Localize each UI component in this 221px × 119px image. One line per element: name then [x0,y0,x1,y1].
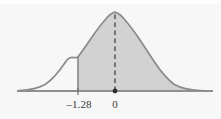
mean-axis-dot [113,89,118,94]
normal-distribution-figure: –1.28 0 [0,0,221,119]
shaded-area-right-of-z [78,12,200,91]
x-tick-label-mean: 0 [104,99,126,110]
x-tick-label-z-critical: –1.28 [62,99,96,110]
